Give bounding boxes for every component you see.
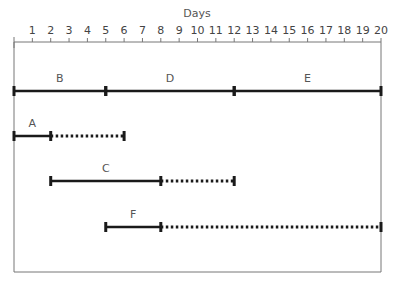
activity-label-E: E bbox=[304, 72, 311, 85]
tick-label: 1 bbox=[29, 24, 36, 37]
activity-F: F bbox=[106, 208, 381, 232]
tick-label: 2 bbox=[47, 24, 54, 37]
activity-label-D: D bbox=[166, 72, 174, 85]
tick-label: 3 bbox=[66, 24, 73, 37]
tick-label: 11 bbox=[209, 24, 223, 37]
tick-label: 6 bbox=[121, 24, 128, 37]
tick-label: 9 bbox=[176, 24, 183, 37]
tick-label: 4 bbox=[84, 24, 91, 37]
tick-label: 19 bbox=[356, 24, 370, 37]
tick-label: 16 bbox=[301, 24, 315, 37]
axis-title: Days bbox=[183, 7, 211, 20]
tick-label: 17 bbox=[319, 24, 333, 37]
tick-label: 13 bbox=[246, 24, 260, 37]
tick-label: 8 bbox=[157, 24, 164, 37]
gantt-chart: Days 1234567891011121314151617181920 BDE… bbox=[0, 0, 395, 281]
tick-label: 5 bbox=[102, 24, 109, 37]
tick-label: 10 bbox=[191, 24, 205, 37]
tick-label: 15 bbox=[282, 24, 296, 37]
tick-label: 20 bbox=[374, 24, 388, 37]
activity-C: C bbox=[51, 162, 235, 186]
x-axis: 1234567891011121314151617181920 bbox=[14, 24, 388, 48]
activity-label: C bbox=[102, 162, 110, 175]
tick-label: 14 bbox=[264, 24, 278, 37]
activity-label: F bbox=[130, 208, 136, 221]
tick-label: 7 bbox=[139, 24, 146, 37]
activity-label-B: B bbox=[56, 72, 64, 85]
activity-A: A bbox=[14, 117, 124, 141]
activity-label: A bbox=[29, 117, 37, 130]
critical-path: BDE bbox=[14, 72, 381, 96]
tick-label: 18 bbox=[337, 24, 351, 37]
bars: BDEACF bbox=[14, 72, 381, 232]
chart-frame bbox=[14, 42, 381, 272]
tick-label: 12 bbox=[227, 24, 241, 37]
